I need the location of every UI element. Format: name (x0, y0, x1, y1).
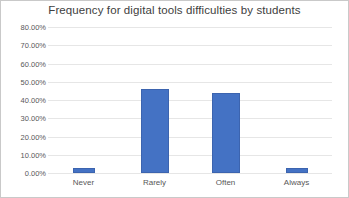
y-axis-tick-label: 70.00% (2, 41, 46, 50)
bar-often[interactable] (212, 93, 240, 173)
y-axis-tick-label: 0.00% (2, 169, 46, 178)
y-axis-tick-label: 60.00% (2, 59, 46, 68)
y-axis-tick-label: 10.00% (2, 150, 46, 159)
plot-area (48, 27, 332, 173)
y-axis-tick-label: 80.00% (2, 23, 46, 32)
y-axis-tick-label: 30.00% (2, 114, 46, 123)
gridline (48, 173, 332, 174)
gridline (48, 82, 332, 83)
y-axis-tick-label: 20.00% (2, 132, 46, 141)
bar-always[interactable] (286, 168, 308, 173)
gridline (48, 118, 332, 119)
gridline (48, 137, 332, 138)
chart-title: Frequency for digital tools difficulties… (1, 4, 348, 16)
y-axis-tick-label: 40.00% (2, 96, 46, 105)
gridline (48, 45, 332, 46)
x-axis-tick-label-never: Never (73, 178, 94, 187)
bar-rarely[interactable] (141, 89, 169, 173)
x-axis-tick-label-rarely: Rarely (143, 178, 166, 187)
gridline (48, 155, 332, 156)
bar-never[interactable] (73, 168, 95, 173)
y-axis-tick-label: 50.00% (2, 77, 46, 86)
y-axis: 0.00%10.00%20.00%30.00%40.00%50.00%60.00… (1, 27, 46, 173)
gridline (48, 100, 332, 101)
gridline (48, 64, 332, 65)
gridline (48, 27, 332, 28)
x-axis-tick-label-always: Always (284, 178, 309, 187)
x-axis-tick-label-often: Often (216, 178, 236, 187)
chart-container: Frequency for digital tools difficulties… (0, 0, 349, 198)
